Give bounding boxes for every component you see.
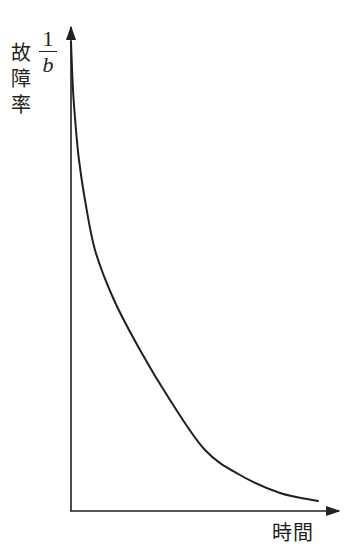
fraction-denominator: b — [38, 54, 58, 76]
y-axis-label-char-3: 率 — [10, 92, 32, 118]
y-axis-label-char-2: 障 — [10, 66, 32, 92]
y-axis-label-char-1: 故 — [10, 40, 32, 66]
y-axis-label: 故 障 率 — [10, 40, 32, 118]
failure-rate-chart — [0, 0, 345, 547]
failure-rate-curve — [71, 42, 318, 501]
y-intercept-fraction: 1 b — [38, 28, 58, 76]
x-axis-label: 時間 — [272, 521, 314, 545]
fraction-numerator: 1 — [38, 28, 58, 50]
